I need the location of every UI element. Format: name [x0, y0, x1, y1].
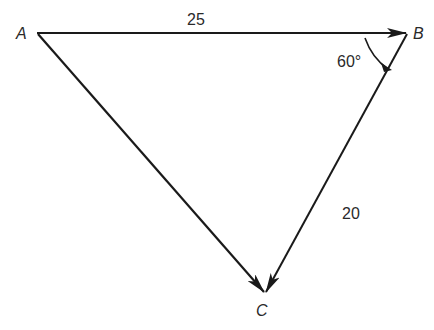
point-label-c: C	[256, 302, 268, 319]
angle-label-b: 60°	[337, 53, 361, 70]
magnitude-label-bc: 20	[342, 205, 360, 222]
magnitude-label-ab: 25	[187, 11, 205, 28]
vector-bc	[266, 34, 407, 292]
vector-ac	[38, 34, 264, 292]
vector-triangle-diagram: A B C 25 20 60°	[0, 0, 434, 330]
angle-arc-b	[365, 38, 388, 69]
point-label-a: A	[15, 25, 27, 42]
point-label-b: B	[413, 25, 424, 42]
